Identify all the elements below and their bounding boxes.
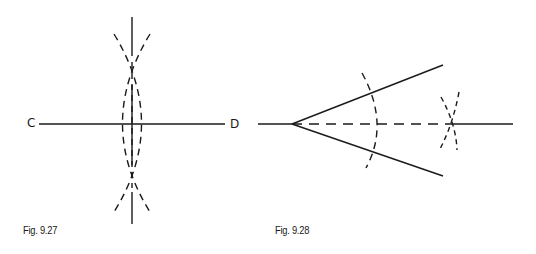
arc-left [123, 34, 151, 212]
arc-right [114, 34, 142, 212]
lower-ray [292, 124, 443, 176]
diagram-canvas [0, 0, 536, 254]
upper-ray [292, 65, 443, 124]
figure-9-27 [39, 17, 225, 224]
point-label-d: D [230, 117, 239, 131]
figure-caption-9-28: Fig. 9.28 [275, 224, 309, 236]
angle-arc [362, 73, 377, 168]
figure-9-28 [258, 65, 513, 176]
point-label-c: C [27, 116, 35, 130]
figure-caption-9-27: Fig. 9.27 [23, 224, 57, 236]
